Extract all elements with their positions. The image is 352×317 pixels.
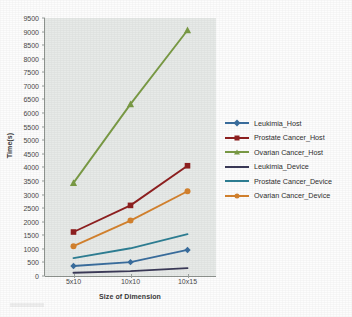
x-tick-mark — [131, 274, 132, 278]
y-tick-label: 5000 — [23, 137, 39, 144]
legend-item[interactable]: Ovarian Cancer_Host — [224, 145, 352, 160]
legend-label: Leukimia_Device — [254, 162, 309, 171]
legend-swatch-icon — [224, 161, 250, 173]
y-tick-label: 4500 — [23, 150, 39, 157]
y-tick-label: 6000 — [23, 110, 39, 117]
x-tick-label: 10x15 — [178, 278, 197, 285]
x-axis-ticks: 5x1010x1010x15 — [45, 278, 216, 292]
legend-item[interactable]: Ovarian Cancer_Device — [224, 189, 352, 204]
series-lines — [45, 18, 216, 276]
x-tick-label: 5x10 — [66, 278, 81, 285]
series-leukimia-host — [70, 247, 190, 269]
y-tick-label: 1500 — [23, 232, 39, 239]
x-tick-label: 10x10 — [121, 278, 140, 285]
y-tick-label: 500 — [27, 259, 39, 266]
legend-swatch-icon — [224, 190, 250, 202]
y-tick-label: 0 — [35, 273, 39, 280]
legend-item[interactable]: Leukimia_Host — [224, 116, 352, 131]
scan-artifact — [10, 303, 44, 307]
y-tick-label: 3000 — [23, 191, 39, 198]
x-tick-mark — [74, 274, 75, 278]
y-tick-label: 4000 — [23, 164, 39, 171]
x-axis-title: Size of Dimension — [44, 293, 216, 300]
y-tick-label: 8500 — [23, 42, 39, 49]
chart-legend: Leukimia_HostProstate Cancer_HostOvarian… — [224, 116, 352, 203]
legend-label: Prostate Cancer_Device — [254, 177, 332, 186]
legend-swatch-icon — [224, 117, 250, 129]
legend-swatch-icon — [224, 146, 250, 158]
series-ovarian-cancer-device — [71, 188, 191, 249]
legend-swatch-icon — [224, 132, 250, 144]
series-leukimia-device — [74, 268, 188, 273]
y-tick-label: 5500 — [23, 123, 39, 130]
y-tick-label: 9000 — [23, 28, 39, 35]
y-axis-title: Time(s) — [6, 116, 13, 176]
legend-label: Prostate Cancer_Host — [254, 133, 325, 142]
y-tick-label: 7500 — [23, 69, 39, 76]
y-tick-label: 6500 — [23, 96, 39, 103]
legend-swatch-icon — [224, 175, 250, 187]
legend-label: Ovarian Cancer_Host — [254, 148, 323, 157]
y-tick-label: 2500 — [23, 205, 39, 212]
y-tick-label: 1000 — [23, 245, 39, 252]
legend-item[interactable]: Leukimia_Device — [224, 160, 352, 175]
y-tick-label: 3500 — [23, 177, 39, 184]
y-tick-label: 8000 — [23, 55, 39, 62]
y-tick-label: 9500 — [23, 15, 39, 22]
x-tick-mark — [188, 274, 189, 278]
legend-item[interactable]: Prostate Cancer_Device — [224, 174, 352, 189]
y-tick-label: 7000 — [23, 82, 39, 89]
plot-area — [45, 18, 216, 276]
y-tick-label: 2000 — [23, 218, 39, 225]
line-chart: 0500100015002000250030003500400045005000… — [0, 0, 352, 317]
legend-label: Ovarian Cancer_Device — [254, 191, 330, 200]
legend-item[interactable]: Prostate Cancer_Host — [224, 131, 352, 146]
legend-label: Leukimia_Host — [254, 119, 302, 128]
series-ovarian-cancer-host — [70, 27, 191, 186]
